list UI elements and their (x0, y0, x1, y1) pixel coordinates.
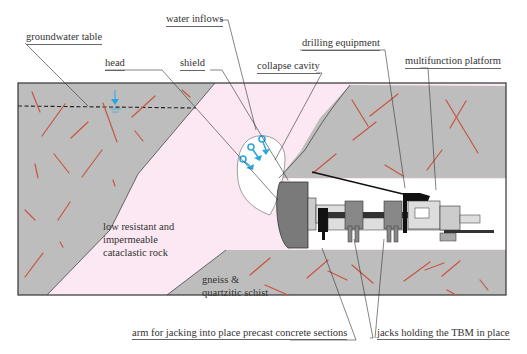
gripper-jack-1 (345, 201, 363, 229)
label-shield: shield (180, 57, 205, 71)
label-arm-jacking: arm for jacking into place precast concr… (132, 327, 347, 340)
label-jacks-holding: jacks holding the TBM in place (377, 327, 510, 340)
gneiss-line-1: gneiss & (202, 273, 268, 286)
gneiss-line-2: quartzitic schist (202, 286, 268, 299)
cutter-head (277, 182, 308, 248)
multifunction-platform (444, 230, 494, 233)
label-groundwater-table: groundwater table (26, 31, 102, 45)
region-label-cataclastic: low resistant and impermeable cataclasti… (103, 220, 174, 259)
label-drilling-equipment: drilling equipment (302, 37, 380, 51)
gripper-jack-2 (384, 201, 402, 229)
tunnel-diagram (0, 0, 527, 354)
cataclastic-line-1: low resistant and (103, 220, 174, 233)
label-multifunction-platform: multifunction platform (405, 55, 501, 69)
cataclastic-line-3: cataclastic rock (103, 246, 174, 259)
region-label-gneiss: gneiss & quartzitic schist (202, 273, 268, 299)
label-head: head (105, 57, 125, 71)
cataclastic-line-2: impermeable (103, 233, 174, 246)
label-collapse-cavity: collapse cavity (257, 60, 320, 74)
label-water-inflows: water inflows (166, 13, 223, 27)
